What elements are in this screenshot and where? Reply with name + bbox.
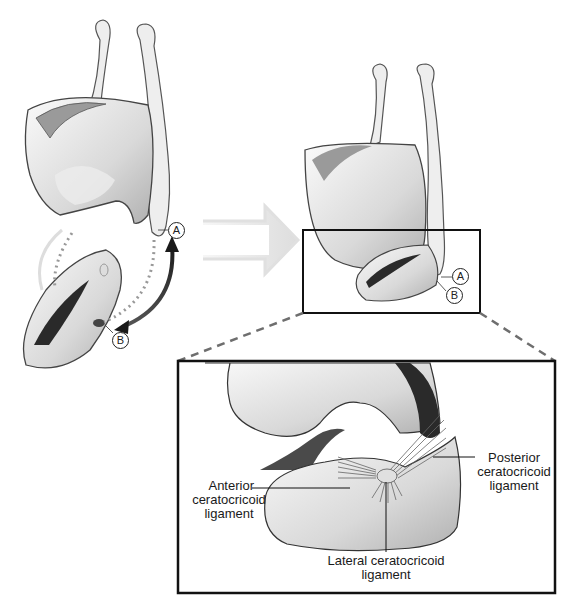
diagram-canvas	[0, 0, 575, 611]
label-line: ligament	[184, 507, 274, 521]
marker-b-right: B	[446, 287, 463, 304]
left-lower-cartilage	[24, 250, 122, 368]
label-line: ligament	[326, 568, 446, 582]
transition-arrow	[203, 206, 298, 274]
right-articulated-cartilage	[305, 64, 445, 301]
projection-line-left	[178, 313, 303, 361]
label-line: ligament	[474, 479, 554, 493]
left-dark-double-arrow	[122, 245, 172, 327]
label-anterior-ceratocricoid-ligament: Anterior ceratocricoid ligament	[184, 479, 274, 521]
label-line: ceratocricoid	[474, 465, 554, 479]
marker-b-left: B	[112, 332, 129, 349]
label-line: Posterior	[474, 451, 554, 465]
marker-a-left: A	[168, 222, 185, 239]
label-lateral-ceratocricoid-ligament: Lateral ceratocricoid ligament	[326, 554, 446, 582]
label-line: ceratocricoid	[184, 493, 274, 507]
label-line: Anterior	[184, 479, 274, 493]
marker-a-right: A	[452, 268, 469, 285]
label-posterior-ceratocricoid-ligament: Posterior ceratocricoid ligament	[474, 451, 554, 493]
projection-line-right	[480, 313, 555, 361]
left-upper-cartilage	[25, 20, 169, 236]
label-line: Lateral ceratocricoid	[326, 554, 446, 568]
